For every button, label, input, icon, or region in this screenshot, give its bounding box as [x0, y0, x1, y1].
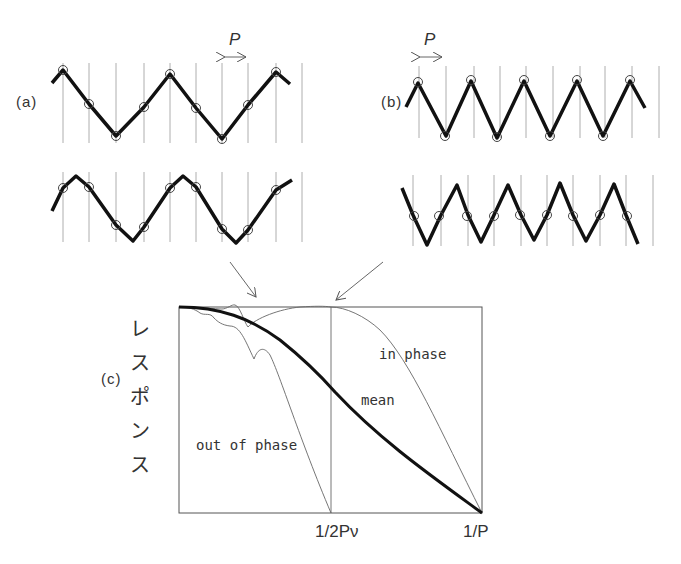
- panel-a-top-wave: [52, 57, 302, 144]
- mean-curve: [179, 307, 482, 513]
- panel-a-bottom-wave: [52, 172, 302, 243]
- panel-a-label: (a): [16, 93, 37, 110]
- panel-b-label: (b): [381, 93, 402, 110]
- y-axis-char: レ: [128, 312, 152, 346]
- response-chart: [179, 305, 482, 513]
- y-axis-char: ン: [128, 414, 152, 448]
- x-tick-half-frequency: 1/2Pν: [315, 522, 358, 542]
- panel-c-label: (c): [101, 370, 122, 387]
- y-axis-label: レ ス ポ ン ス: [128, 312, 152, 482]
- in-phase-label: in phase: [379, 346, 446, 362]
- in-phase-curve: [179, 305, 482, 513]
- panel-b-period-label: P: [424, 30, 435, 50]
- panel-b-top-wave: [406, 57, 659, 142]
- figure-canvas: [0, 0, 681, 564]
- y-axis-char: ポ: [128, 380, 152, 414]
- out-of-phase-label: out of phase: [196, 437, 297, 453]
- arrow-from-b: [336, 262, 383, 300]
- panel-a-period-label: P: [229, 30, 240, 50]
- y-axis-char: ス: [128, 346, 152, 380]
- y-axis-char: ス: [128, 448, 152, 482]
- arrow-from-a: [230, 262, 256, 297]
- mean-label: mean: [361, 392, 395, 408]
- x-tick-frequency: 1/P: [463, 522, 489, 542]
- out-of-phase-curve: [179, 307, 331, 513]
- panel-b-bottom-wave: [402, 175, 653, 246]
